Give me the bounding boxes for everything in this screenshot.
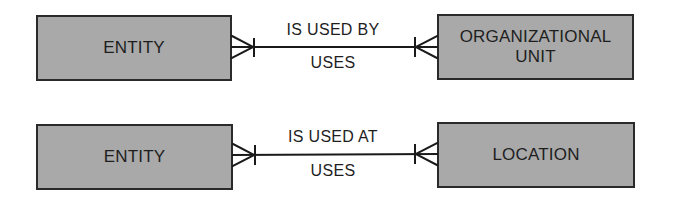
crows-foot-many-icon xyxy=(415,143,437,165)
entity-label: ORGANIZATIONAL UNIT xyxy=(460,27,612,67)
entity-box-organizational-unit: ORGANIZATIONAL UNIT xyxy=(437,14,634,80)
entity-label: LOCATION xyxy=(492,145,579,165)
relationship-line-2 xyxy=(233,154,437,155)
crows-foot-many-icon xyxy=(415,36,437,58)
entity-label: ENTITY xyxy=(104,147,166,167)
entity-label: ENTITY xyxy=(103,38,165,58)
relationship-label-uses-2: USES xyxy=(311,162,356,180)
entity-box-entity-2: ENTITY xyxy=(36,124,233,190)
relationship-label-is-used-at: IS USED AT xyxy=(288,128,378,146)
crows-foot-many-icon xyxy=(232,36,254,58)
entity-box-entity-1: ENTITY xyxy=(36,15,232,81)
relationship-label-is-used-by: IS USED BY xyxy=(287,21,380,39)
crows-foot-many-icon xyxy=(233,144,255,166)
entity-box-location: LOCATION xyxy=(437,122,635,188)
relationship-label-uses-1: USES xyxy=(311,54,356,72)
